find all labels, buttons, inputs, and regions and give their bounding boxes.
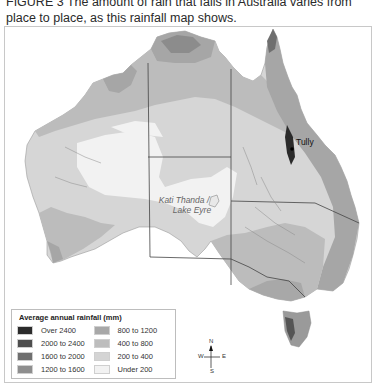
scale-bar: 0 250 500 km (191, 381, 271, 383)
legend-swatch (17, 352, 33, 361)
scale-tick-250: 250 (206, 381, 218, 383)
legend-label: Over 2400 (41, 326, 76, 335)
legend-item: 200 to 400 (94, 351, 171, 361)
legend-swatch (17, 365, 33, 374)
legend-swatch (94, 352, 110, 361)
legend-item: 800 to 1200 (94, 325, 171, 335)
legend-item: 1600 to 2000 (17, 351, 94, 361)
lake-eyre-label-line1: Kati Thanda / (139, 195, 229, 205)
legend-swatch (94, 365, 110, 374)
legend-title: Average annual rainfall (mm) (19, 313, 170, 322)
legend-swatch (94, 326, 110, 335)
figure-label: FIGURE 3 (6, 0, 64, 9)
legend-label: 2000 to 2400 (41, 339, 85, 348)
tully-label: Tully (296, 137, 314, 147)
legend-label: 200 to 400 (118, 352, 153, 361)
figure-caption: FIGURE 3 The amount of rain that falls i… (6, 0, 376, 26)
legend-item: Over 2400 (17, 325, 94, 335)
legend-label: 400 to 800 (118, 339, 153, 348)
legend-swatch (17, 339, 33, 348)
compass-rose: N W E S (198, 338, 238, 378)
legend-label: 800 to 1200 (118, 326, 158, 335)
legend-swatch (94, 339, 110, 348)
legend-label: Under 200 (118, 365, 153, 374)
tully-marker (290, 147, 294, 151)
compass-arrow-icon (198, 338, 238, 378)
legend-item: 1200 to 1600 (17, 364, 94, 374)
legend-item: Under 200 (94, 364, 171, 374)
legend-label: 1600 to 2000 (41, 352, 85, 361)
legend-item: 2000 to 2400 (17, 338, 94, 348)
scale-tick-500: 500 km (227, 381, 250, 383)
scale-tick-0: 0 (191, 381, 195, 383)
legend-item: 400 to 800 (94, 338, 171, 348)
rainfall-legend: Average annual rainfall (mm) Over 240080… (11, 309, 176, 379)
lake-eyre-label: Kati Thanda / Lake Eyre (139, 195, 229, 215)
legend-grid: Over 2400800 to 12002000 to 2400400 to 8… (17, 325, 170, 374)
legend-label: 1200 to 1600 (41, 365, 85, 374)
legend-swatch (17, 326, 33, 335)
map-frame: Kati Thanda / Lake Eyre Tully N W E S 0 … (4, 26, 372, 383)
lake-eyre-label-line2: Lake Eyre (139, 205, 229, 215)
